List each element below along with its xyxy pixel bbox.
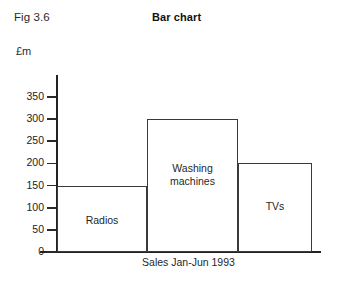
y-axis-tick-label: 150 [8,180,44,192]
bar-label: Washing machines [148,162,237,187]
y-axis-tick-label-text: 150 [26,180,44,191]
bar-tvs: TVs [238,163,312,252]
plot-area: 050100150200250300350 RadiosWashing mach… [0,0,344,289]
y-axis-tick-label-text: 250 [26,135,44,146]
y-axis-tick-mark [47,96,56,98]
figure-container: Fig 3.6 Bar chart £m 0501001502002503003… [0,0,344,289]
y-axis-tick-label: 0 [8,246,44,258]
x-axis-caption: Sales Jan-Jun 1993 [56,256,321,268]
y-axis-tick-mark [47,118,56,120]
y-axis-tick-label: 300 [8,113,44,125]
y-axis-tick-mark [47,185,56,187]
bar-label: Radios [58,214,146,227]
y-axis-tick-label-text: 50 [32,224,44,235]
bar-label: TVs [239,200,311,213]
y-axis-tick-label-text: 100 [26,202,44,213]
y-axis-tick-mark [47,229,56,231]
bar-washing-machines: Washing machines [147,119,238,252]
y-axis-tick-mark [47,140,56,142]
y-axis-tick-label: 100 [8,202,44,214]
bar-radios: Radios [57,186,147,252]
y-axis-tick-label-text: 350 [26,91,44,102]
y-axis-tick-label-text: 200 [26,157,44,168]
y-axis-tick-mark [47,251,56,253]
y-axis-tick-mark [47,207,56,209]
y-axis-tick-label: 200 [8,157,44,169]
y-axis-tick-label: 50 [8,224,44,236]
y-axis-tick-label: 250 [8,135,44,147]
y-axis-tick-mark [47,163,56,165]
y-axis-tick-label-text: 300 [26,113,44,124]
y-axis-tick-label-text: 0 [38,246,44,257]
y-axis-tick-label: 350 [8,91,44,103]
